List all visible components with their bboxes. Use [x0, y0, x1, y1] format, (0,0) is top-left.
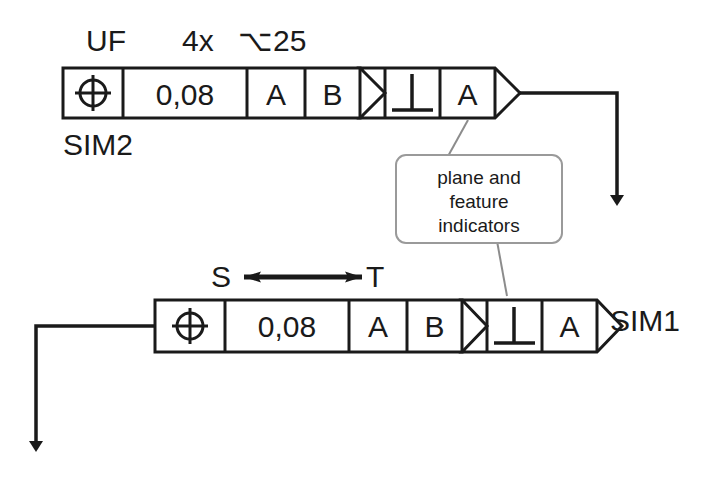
gdt-diagram-svg [0, 0, 717, 489]
bottom-indicator-datum-a: A [542, 312, 597, 342]
callout-line-3: indicators [404, 214, 554, 238]
top-frame-tolerance-value: 0,08 [123, 80, 247, 110]
bottom-frame-datum-b: B [407, 312, 462, 342]
quantity-label: 4x [182, 26, 214, 56]
diameter-label: ⌥25 [238, 26, 306, 56]
bottom-frame-datum-a: A [349, 312, 407, 342]
upper-feature-label: UF [86, 26, 126, 56]
top-frame-datum-a: A [247, 80, 305, 110]
bottom-frame-tolerance-value: 0,08 [225, 312, 349, 342]
sim1-label: SIM1 [610, 306, 680, 336]
bottom-leader-line [36, 326, 155, 442]
callout-leader-lower [497, 241, 507, 296]
callout-text: plane and feature indicators [404, 166, 554, 237]
between-end-label: T [366, 262, 384, 292]
top-frame-datum-b: B [305, 80, 360, 110]
drawing-canvas: UF 4x ⌥25 0,08 A B A SIM2 plane and feat… [0, 0, 717, 489]
sim2-label: SIM2 [63, 130, 133, 160]
between-start-label: S [211, 262, 231, 292]
callout-line-2: feature [404, 190, 554, 214]
top-indicator-datum-a: A [440, 80, 495, 110]
callout-leader-upper [447, 120, 468, 158]
callout-line-1: plane and [404, 166, 554, 190]
